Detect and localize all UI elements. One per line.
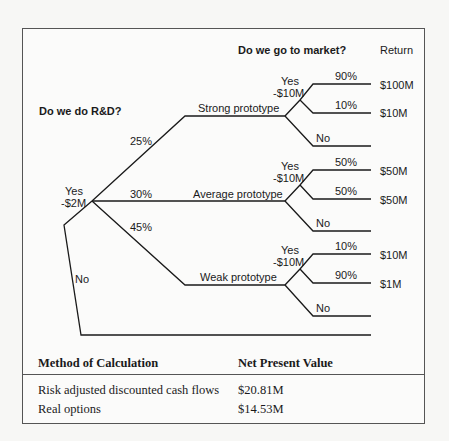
table-row-method: Real options bbox=[38, 403, 101, 416]
root-yes-cost: -$2M bbox=[61, 198, 86, 209]
weak-probability: 45% bbox=[130, 222, 152, 233]
table-row-value: $20.81M bbox=[238, 384, 284, 397]
return-header: Return bbox=[380, 45, 413, 56]
weak-prototype-label: Weak prototype bbox=[200, 272, 277, 283]
average-outcome2-prob: 50% bbox=[335, 186, 357, 197]
average-yes-cost: -$10M bbox=[273, 173, 304, 184]
average-outcome1-return: $50M bbox=[380, 166, 408, 177]
weak-outcome2-prob: 90% bbox=[335, 270, 357, 281]
root-yes-label: Yes bbox=[65, 186, 83, 197]
strong-no-label: No bbox=[316, 133, 330, 144]
strong-yes-cost: -$10M bbox=[273, 88, 304, 99]
strong-outcome1-prob: 90% bbox=[335, 71, 357, 82]
table-header-method: Method of Calculation bbox=[38, 357, 158, 370]
average-outcome1-prob: 50% bbox=[335, 157, 357, 168]
table-row-value: $14.53M bbox=[238, 403, 284, 416]
table-header-npv: Net Present Value bbox=[238, 357, 333, 370]
table-row-method: Risk adjusted discounted cash flows bbox=[38, 384, 219, 397]
average-yes-label: Yes bbox=[281, 161, 299, 172]
average-probability: 30% bbox=[130, 189, 152, 200]
weak-outcome1-prob: 10% bbox=[335, 241, 357, 252]
strong-outcome2-return: $10M bbox=[380, 108, 408, 119]
average-prototype-label: Average prototype bbox=[193, 189, 283, 200]
root-no-label: No bbox=[75, 274, 89, 285]
table-divider bbox=[22, 374, 425, 375]
strong-yes-label: Yes bbox=[281, 76, 299, 87]
strong-outcome1-return: $100M bbox=[380, 80, 414, 91]
average-no-label: No bbox=[316, 218, 330, 229]
strong-prototype-label: Strong prototype bbox=[198, 103, 279, 114]
question-rd: Do we do R&D? bbox=[39, 106, 122, 117]
strong-probability: 25% bbox=[130, 136, 152, 147]
weak-outcome2-return: $1M bbox=[380, 279, 401, 290]
weak-no-label: No bbox=[316, 303, 330, 314]
weak-yes-cost: -$10M bbox=[273, 257, 304, 268]
strong-outcome2-prob: 10% bbox=[335, 100, 357, 111]
weak-outcome1-return: $10M bbox=[380, 250, 408, 261]
weak-yes-label: Yes bbox=[281, 245, 299, 256]
question-market: Do we go to market? bbox=[238, 45, 346, 56]
average-outcome2-return: $50M bbox=[380, 195, 408, 206]
